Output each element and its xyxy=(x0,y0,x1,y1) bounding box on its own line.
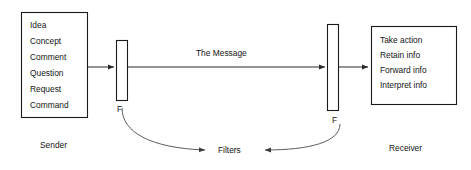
message-label: The Message xyxy=(196,48,247,58)
receiver-item-3: Interpret info xyxy=(380,80,427,90)
receiver-item-1: Retain info xyxy=(380,50,420,60)
sender-role-label: Sender xyxy=(40,140,67,150)
sender-item-3: Question xyxy=(30,68,64,78)
sender-item-0: Idea xyxy=(30,20,47,30)
receiver-item-0: Take action xyxy=(380,35,423,45)
sender-item-2: Comment xyxy=(30,52,67,62)
sender-item-1: Concept xyxy=(30,36,62,46)
filters-caption: Filters xyxy=(218,145,241,155)
sender-filter-bar xyxy=(117,41,128,101)
receiver-filter-label: F xyxy=(332,115,337,125)
communication-model-diagram: Idea Concept Comment Question Request Co… xyxy=(0,0,471,170)
curve-receiver-filter-to-filters xyxy=(265,124,340,150)
receiver-role-label: Receiver xyxy=(389,143,422,153)
sender-filter-label: F xyxy=(117,104,122,114)
sender-item-5: Command xyxy=(30,100,69,110)
sender-item-4: Request xyxy=(30,84,62,94)
receiver-item-2: Forward info xyxy=(380,65,427,75)
diagram-canvas: Idea Concept Comment Question Request Co… xyxy=(0,0,471,170)
curve-sender-filter-to-filters xyxy=(122,108,205,150)
receiver-filter-bar xyxy=(328,25,339,111)
